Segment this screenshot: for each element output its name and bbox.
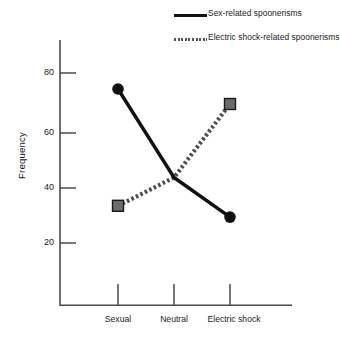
chart-legend: Sex-related spoonerisms Electric shock-r… <box>172 8 340 56</box>
legend-item-electric-shock-related: Electric shock-related spoonerisms <box>172 32 340 47</box>
legend-dotted-line-icon <box>172 32 208 47</box>
series-line-electric-shock-related <box>118 104 230 206</box>
legend-solid-line-icon <box>172 8 208 23</box>
y-tick-label-60: 60 <box>30 127 54 137</box>
series-line-sex-related <box>118 89 230 217</box>
legend-label-electric-shock-related: Electric shock-related spoonerisms <box>208 32 340 42</box>
data-point-sex-related-electric-shock <box>224 211 236 223</box>
x-tick-label-neutral: Neutral <box>160 314 188 324</box>
y-tick-label-20: 20 <box>30 237 54 247</box>
data-point-electric-shock-related-sexual <box>113 200 124 211</box>
y-axis-title: Frequency <box>16 111 27 201</box>
y-tick-label-40: 40 <box>30 182 54 192</box>
x-tick-label-electric-shock: Electric shock <box>207 314 260 324</box>
legend-label-sex-related: Sex-related spoonerisms <box>208 8 302 18</box>
x-tick-label-sexual: Sexual <box>105 314 131 324</box>
y-tick-label-80: 80 <box>30 67 54 77</box>
legend-item-sex-related: Sex-related spoonerisms <box>172 8 340 23</box>
line-chart-figure: Sex-related spoonerisms Electric shock-r… <box>0 0 340 343</box>
data-point-electric-shock-related-electric-shock <box>225 99 236 110</box>
data-point-sex-related-sexual <box>112 83 124 95</box>
